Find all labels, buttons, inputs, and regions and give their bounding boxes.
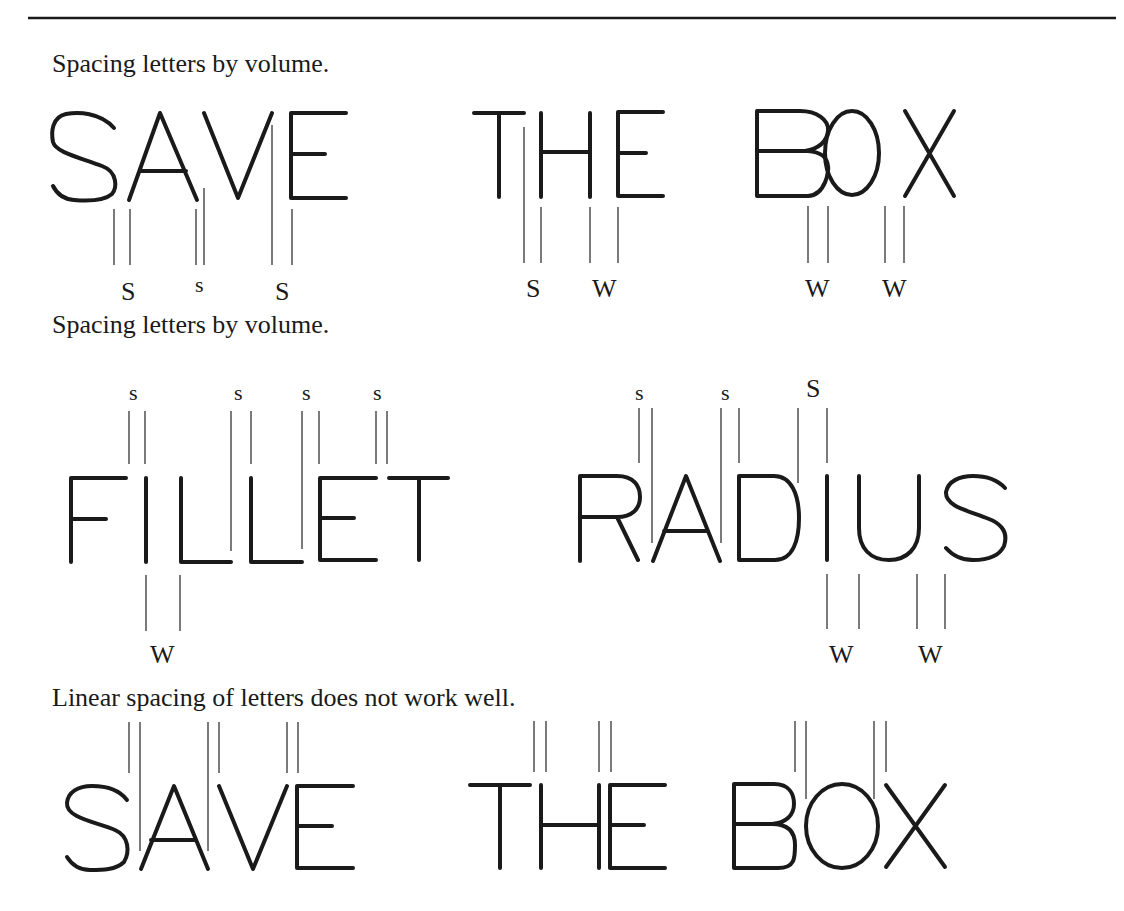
- letter-a: [129, 113, 197, 200]
- spacing-label: W: [829, 640, 854, 669]
- example-1-volume-spacing-save-the-box: Spacing letters by volume.: [52, 49, 954, 306]
- letter-e: [291, 113, 346, 198]
- spacing-label: s: [129, 380, 138, 405]
- caption-3: Linear spacing of letters does not work …: [52, 683, 516, 712]
- letter-e: [320, 478, 376, 560]
- letter-r: [580, 476, 640, 561]
- letter-e: [610, 785, 665, 868]
- letter-h: [541, 785, 599, 868]
- letter-l: [251, 478, 302, 562]
- letter-o: [825, 111, 879, 195]
- spacing-label: W: [592, 274, 617, 303]
- letter-e: [297, 786, 353, 868]
- spacing-label: s: [635, 380, 644, 405]
- spacing-labels-1: S s S S W W W: [121, 272, 907, 306]
- word-save: [52, 113, 346, 200]
- spacing-label: S: [121, 277, 135, 306]
- spacing-label: s: [195, 272, 204, 297]
- spacing-label: S: [526, 274, 540, 303]
- example-2-volume-spacing-fillet-radius: Spacing letters by volume.: [52, 310, 1005, 669]
- letter-a: [141, 786, 208, 869]
- letter-h: [541, 113, 590, 197]
- spacing-label: W: [918, 640, 943, 669]
- word-box: [734, 784, 945, 868]
- letter-t: [470, 785, 530, 868]
- spacing-label: S: [275, 277, 289, 306]
- spacing-label: s: [373, 380, 382, 405]
- lettering-spacing-figure: Spacing letters by volume.: [0, 0, 1124, 911]
- spacing-label: W: [882, 274, 907, 303]
- letter-x: [905, 111, 954, 196]
- letter-t: [474, 113, 524, 197]
- word-radius: [580, 476, 1005, 561]
- letter-s: [52, 113, 115, 200]
- letter-s: [67, 786, 128, 870]
- spacing-label: W: [805, 274, 830, 303]
- letter-u: [859, 476, 919, 560]
- letter-a: [653, 476, 720, 561]
- letter-s: [946, 476, 1005, 560]
- word-fillet: [71, 478, 448, 562]
- letter-d: [739, 476, 799, 560]
- letter-v: [204, 113, 272, 198]
- example-3-linear-spacing-save-the-box: Linear spacing of letters does not work …: [52, 683, 945, 870]
- spacing-label: W: [150, 640, 175, 669]
- letter-t: [389, 478, 448, 560]
- spacing-label: s: [721, 380, 730, 405]
- letter-l: [181, 478, 231, 562]
- word-box: [757, 111, 954, 196]
- word-save: [67, 786, 353, 870]
- letter-b: [734, 784, 795, 868]
- letter-b: [757, 111, 828, 196]
- spacing-label: S: [806, 374, 820, 403]
- word-the: [470, 785, 665, 868]
- caption-1: Spacing letters by volume.: [52, 49, 329, 78]
- letter-e: [618, 112, 663, 196]
- caption-2: Spacing letters by volume.: [52, 310, 329, 339]
- spacing-label: s: [302, 380, 311, 405]
- spacing-label: s: [234, 380, 243, 405]
- letter-v: [219, 786, 287, 869]
- word-the: [474, 112, 663, 197]
- letter-f: [71, 478, 126, 562]
- letter-o: [806, 784, 878, 868]
- letter-x: [886, 785, 945, 867]
